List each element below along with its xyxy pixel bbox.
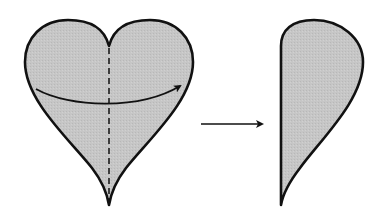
diagram-canvas (0, 0, 384, 212)
full-heart (25, 20, 193, 205)
fold-diagram (0, 0, 384, 212)
half-heart-shape (281, 20, 363, 205)
half-heart (281, 20, 363, 205)
